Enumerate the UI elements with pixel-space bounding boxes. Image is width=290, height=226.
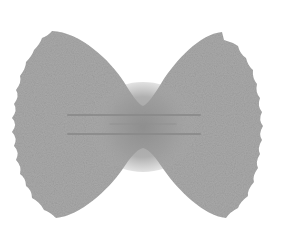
pasta-center-shade (88, 82, 198, 172)
farfalle-icon (0, 0, 290, 226)
pasta-illustration (0, 0, 290, 226)
